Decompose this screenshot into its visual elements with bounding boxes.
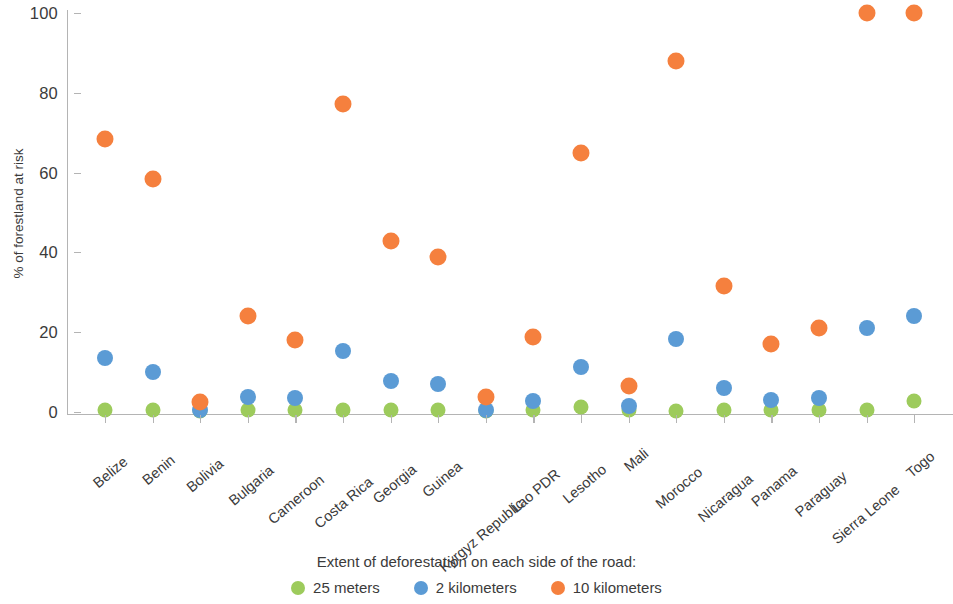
data-point <box>382 233 399 250</box>
y-tick-label: 100 <box>18 4 58 23</box>
legend-swatch-icon <box>551 581 565 595</box>
legend-item[interactable]: 2 kilometers <box>414 579 517 596</box>
x-tick-mark <box>771 415 772 423</box>
data-point <box>811 320 828 337</box>
data-point <box>97 350 113 366</box>
x-axis-label-text: Morocco <box>653 464 706 512</box>
data-point <box>763 392 779 408</box>
data-point <box>383 373 399 389</box>
legend-swatch-icon <box>414 581 428 595</box>
y-tick-label: 80 <box>18 83 58 102</box>
data-point <box>763 336 780 353</box>
legend-label: 2 kilometers <box>436 579 517 596</box>
data-point <box>906 5 923 22</box>
x-tick-mark <box>486 415 487 423</box>
x-axis-label-text: Sierra Leone <box>828 481 902 547</box>
x-tick-mark <box>105 415 106 423</box>
data-point <box>573 359 589 375</box>
y-tick-label: 40 <box>18 243 58 262</box>
legend-label: 10 kilometers <box>573 579 662 596</box>
x-axis-label-text: Belize <box>90 453 131 491</box>
data-point <box>145 364 161 380</box>
x-axis-label: Mali <box>641 428 672 457</box>
data-point <box>668 52 685 69</box>
x-tick-mark <box>819 415 820 423</box>
data-point <box>240 389 256 405</box>
data-point <box>97 131 114 148</box>
x-tick-mark <box>629 415 630 423</box>
scatter-chart: % of forestland at risk 100806040200 Bel… <box>0 0 953 604</box>
x-axis-label-text: Bolivia <box>183 455 226 495</box>
data-point <box>430 376 446 392</box>
x-tick-mark <box>248 415 249 423</box>
x-axis-label-text: Nicaragua <box>695 470 756 525</box>
data-point <box>907 394 922 409</box>
x-tick-mark <box>295 415 296 423</box>
data-point <box>477 388 494 405</box>
y-axis-ticks: 100806040200 <box>14 0 58 604</box>
legend-title: Extent of deforestation on each side of … <box>0 553 953 570</box>
data-point <box>287 390 303 406</box>
x-axis-label-text: Benin <box>139 452 178 488</box>
data-point <box>621 398 637 414</box>
x-tick-mark <box>391 415 392 423</box>
x-tick-mark <box>676 415 677 423</box>
y-tick-label: 60 <box>18 163 58 182</box>
x-tick-mark <box>153 415 154 423</box>
legend-item[interactable]: 25 meters <box>291 579 380 596</box>
x-axis-label: Benin <box>167 428 206 464</box>
x-axis-label: Togo <box>928 428 953 460</box>
x-tick-mark <box>914 415 915 423</box>
data-point <box>239 308 256 325</box>
legend-items: 25 meters2 kilometers10 kilometers <box>0 579 953 596</box>
x-tick-mark <box>200 415 201 423</box>
x-axis-label: Belize <box>120 428 161 466</box>
data-point <box>573 144 590 161</box>
x-tick-mark <box>867 415 868 423</box>
x-axis-label: Guinea <box>455 428 501 470</box>
legend-label: 25 meters <box>313 579 380 596</box>
data-point <box>335 343 351 359</box>
x-tick-mark <box>438 415 439 423</box>
data-point <box>906 308 922 324</box>
data-point <box>811 390 827 406</box>
data-point <box>716 380 732 396</box>
data-point <box>192 393 209 410</box>
x-axis-label-text: Paraguay <box>792 468 850 520</box>
x-tick-mark <box>343 415 344 423</box>
x-tick-mark <box>724 415 725 423</box>
x-axis-label: Morocco <box>695 428 748 476</box>
plot-area <box>67 0 953 415</box>
data-point <box>335 95 352 112</box>
chart-legend: Extent of deforestation on each side of … <box>0 553 953 596</box>
data-point <box>287 332 304 349</box>
x-axis-label-text: Lao PDR <box>508 466 563 516</box>
data-point <box>620 377 637 394</box>
x-axis-label: Bolivia <box>216 428 259 468</box>
x-axis-label-text: Bulgaria <box>225 462 276 508</box>
x-tick-mark <box>581 415 582 423</box>
data-point <box>574 400 589 415</box>
y-tick-label: 0 <box>18 403 58 422</box>
data-point <box>525 393 541 409</box>
x-axis-label: Paraguay <box>840 428 898 480</box>
x-axis-label: Bulgaria <box>266 428 317 474</box>
data-point <box>668 331 684 347</box>
data-point <box>859 320 875 336</box>
data-point <box>525 329 542 346</box>
legend-item[interactable]: 10 kilometers <box>551 579 662 596</box>
y-tick-label: 20 <box>18 323 58 342</box>
data-point <box>430 249 447 266</box>
data-point <box>858 5 875 22</box>
legend-swatch-icon <box>291 581 305 595</box>
x-tick-mark <box>533 415 534 423</box>
data-point <box>715 277 732 294</box>
data-point <box>144 170 161 187</box>
